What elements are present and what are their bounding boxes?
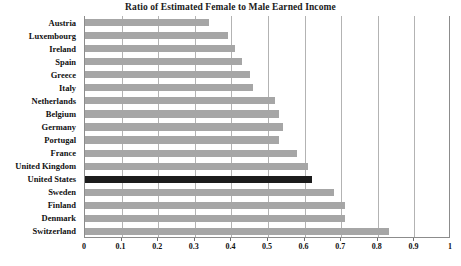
bar-row — [85, 84, 449, 91]
bar-row — [85, 176, 449, 183]
x-tick-label: 0.2 — [152, 242, 162, 251]
bar-row — [85, 71, 449, 78]
bar-row — [85, 202, 449, 209]
bar-united-states — [85, 176, 312, 183]
bar-row — [85, 97, 449, 104]
y-label-austria: Austria — [49, 18, 76, 28]
bar-row — [85, 123, 449, 130]
x-tick-label: 0.5 — [262, 242, 272, 251]
x-tick-mark — [194, 238, 195, 241]
y-label-finland: Finland — [48, 200, 76, 210]
y-label-italy: Italy — [59, 83, 76, 93]
x-tick-mark — [413, 238, 414, 241]
x-tick-mark — [157, 238, 158, 241]
bar-chart: Ratio of Estimated Female to Male Earned… — [0, 0, 461, 266]
bar-row — [85, 163, 449, 170]
bar-row — [85, 19, 449, 26]
bar-row — [85, 228, 449, 235]
y-label-switzerland: Switzerland — [33, 226, 76, 236]
bar-france — [85, 150, 297, 157]
bar-row — [85, 189, 449, 196]
y-label-ireland: Ireland — [49, 44, 76, 54]
bar-germany — [85, 123, 283, 130]
bar-belgium — [85, 110, 279, 117]
bar-row — [85, 136, 449, 143]
y-label-netherlands: Netherlands — [32, 96, 76, 106]
y-label-united-states: United States — [28, 174, 76, 184]
y-axis-category-labels: AustriaLuxembourgIrelandSpainGreeceItaly… — [0, 16, 80, 238]
x-axis-tick-labels: 00.10.20.30.40.50.60.70.80.91 — [0, 242, 461, 258]
x-tick-mark — [340, 238, 341, 241]
x-tick-label: 0.1 — [116, 242, 126, 251]
plot-area — [84, 16, 450, 238]
y-label-denmark: Denmark — [42, 213, 76, 223]
bar-ireland — [85, 45, 235, 52]
y-label-greece: Greece — [51, 70, 76, 80]
x-tick-mark — [377, 238, 378, 241]
bar-luxembourg — [85, 32, 228, 39]
bar-finland — [85, 202, 345, 209]
y-label-france: France — [51, 148, 77, 158]
bar-spain — [85, 58, 242, 65]
bar-denmark — [85, 215, 345, 222]
x-tick-label: 0.3 — [189, 242, 199, 251]
bar-greece — [85, 71, 250, 78]
x-tick-label: 0.7 — [335, 242, 345, 251]
x-tick-mark — [230, 238, 231, 241]
x-tick-label: 0.4 — [225, 242, 235, 251]
x-tick-mark — [121, 238, 122, 241]
bar-united-kingdom — [85, 163, 308, 170]
bar-row — [85, 150, 449, 157]
x-tick-label: 0.9 — [408, 242, 418, 251]
x-tick-label: 0.8 — [372, 242, 382, 251]
bar-row — [85, 58, 449, 65]
y-label-luxembourg: Luxembourg — [29, 31, 76, 41]
y-label-belgium: Belgium — [46, 109, 76, 119]
bar-row — [85, 215, 449, 222]
bar-switzerland — [85, 228, 389, 235]
bars-layer — [85, 16, 449, 237]
x-tick-label: 0.6 — [299, 242, 309, 251]
bar-sweden — [85, 189, 334, 196]
x-tick-mark — [267, 238, 268, 241]
y-label-germany: Germany — [42, 122, 76, 132]
bar-row — [85, 110, 449, 117]
y-label-united-kingdom: United Kingdom — [15, 161, 76, 171]
x-tick-label: 0 — [82, 242, 86, 251]
chart-title: Ratio of Estimated Female to Male Earned… — [0, 2, 461, 12]
y-label-portugal: Portugal — [44, 135, 76, 145]
x-tick-label: 1 — [448, 242, 452, 251]
bar-row — [85, 32, 449, 39]
y-label-spain: Spain — [55, 57, 76, 67]
y-label-sweden: Sweden — [48, 187, 76, 197]
bar-netherlands — [85, 97, 275, 104]
bar-portugal — [85, 136, 279, 143]
bar-austria — [85, 19, 209, 26]
x-tick-mark — [304, 238, 305, 241]
bar-row — [85, 45, 449, 52]
bar-italy — [85, 84, 253, 91]
